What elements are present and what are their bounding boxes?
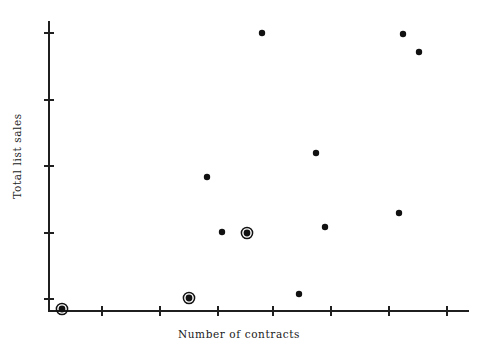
data-point-highlighted (183, 292, 194, 303)
data-point (296, 291, 302, 297)
data-point-marker-2 (244, 230, 251, 237)
y-axis-title-container: Total list sales (0, 0, 34, 311)
data-points (56, 30, 422, 315)
data-point-marker-11 (416, 49, 422, 55)
data-point (416, 49, 422, 55)
data-point-marker-8 (322, 224, 328, 230)
data-point-marker-5 (259, 30, 265, 36)
data-point-highlighted (56, 303, 67, 314)
tick-marks (44, 33, 447, 316)
x-axis-title: Number of contracts (0, 328, 478, 340)
scatter-plot-figure: Total list sales Number of contracts (0, 0, 478, 357)
plot-canvas (0, 0, 478, 357)
data-point (259, 30, 265, 36)
data-point (400, 31, 406, 37)
data-point (313, 150, 319, 156)
data-point-marker-1 (186, 295, 193, 302)
data-point (396, 210, 402, 216)
data-point-marker-9 (396, 210, 402, 216)
y-axis-title: Total list sales (11, 113, 23, 199)
data-point (204, 174, 210, 180)
axes (49, 22, 468, 311)
data-point-marker-4 (219, 229, 225, 235)
data-point-highlighted (241, 227, 252, 238)
data-point-marker-0 (59, 306, 66, 313)
data-point-marker-6 (296, 291, 302, 297)
data-point-marker-3 (204, 174, 210, 180)
data-point (322, 224, 328, 230)
data-point-marker-10 (400, 31, 406, 37)
data-point-marker-7 (313, 150, 319, 156)
data-point (219, 229, 225, 235)
